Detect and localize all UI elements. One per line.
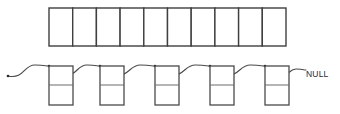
diagram-canvas: NULL xyxy=(0,0,340,114)
array-cell-3[interactable] xyxy=(120,8,144,46)
array-cell-8[interactable] xyxy=(239,8,263,46)
bucket-array xyxy=(49,8,286,46)
head-pointer-curve xyxy=(8,65,49,77)
array-cell-7[interactable] xyxy=(215,8,239,46)
array-cell-0[interactable] xyxy=(49,8,73,46)
hash-table-diagram: NULL xyxy=(0,0,340,114)
array-cell-9[interactable] xyxy=(262,8,286,46)
array-cell-4[interactable] xyxy=(144,8,168,46)
head-pointer-origin-dot xyxy=(7,75,10,78)
array-cell-6[interactable] xyxy=(191,8,215,46)
null-terminator-label: NULL xyxy=(306,69,329,79)
node-chain xyxy=(49,66,289,105)
array-cell-1[interactable] xyxy=(73,8,97,46)
array-cell-2[interactable] xyxy=(96,8,120,46)
array-cell-5[interactable] xyxy=(168,8,192,46)
